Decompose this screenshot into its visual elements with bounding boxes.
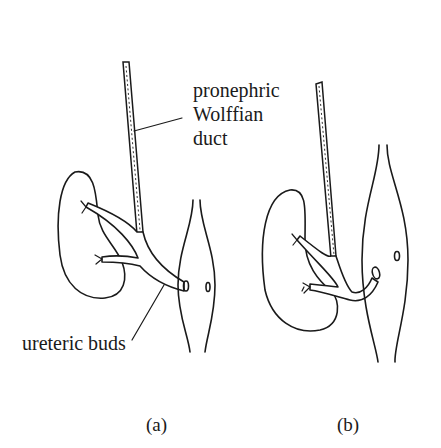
panel-label-b: (b) <box>337 415 359 434</box>
cloaca-a <box>178 200 193 352</box>
duct-opening-a <box>184 281 189 291</box>
cloaca-b <box>362 145 379 362</box>
embryonic-kidney-diagram: pronephric Wolffian duct ureteric buds (… <box>0 0 441 448</box>
ureteric-bud-b <box>297 236 378 301</box>
panel-label-a: (a) <box>146 415 167 434</box>
panel-a-drawing <box>58 62 215 352</box>
kidney-mesenchyme-a <box>58 172 125 299</box>
wolffian-duct-b <box>316 82 336 258</box>
duct-opening-b <box>395 252 400 261</box>
label-ureteric-buds: ureteric buds <box>22 333 126 353</box>
panel-b-drawing <box>262 82 408 362</box>
leader-line-buds <box>132 285 164 340</box>
label-pronephric: pronephric <box>193 80 280 100</box>
label-duct: duct <box>193 128 227 148</box>
leader-line-duct <box>134 118 182 131</box>
label-wolffian: Wolffian <box>193 104 263 124</box>
